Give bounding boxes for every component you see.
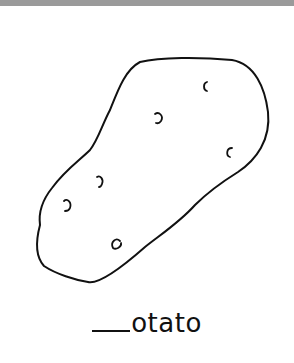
eye-3	[227, 148, 232, 157]
word-remainder: otato	[131, 308, 202, 338]
eye-5	[64, 200, 70, 211]
eye-1	[204, 82, 207, 91]
missing-letter-blank[interactable]	[92, 308, 130, 332]
word-caption: otato	[0, 308, 294, 338]
eye-2	[155, 113, 162, 123]
eye-6	[112, 240, 121, 249]
eye-4	[97, 176, 103, 187]
potato-outline	[37, 58, 268, 282]
potato-eyes	[64, 82, 232, 249]
